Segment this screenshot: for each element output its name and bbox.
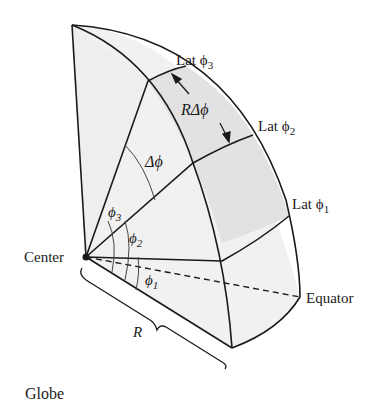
equator-label: Equator	[306, 290, 353, 306]
figure-caption: Globe	[25, 385, 64, 403]
center-label: Center	[24, 249, 64, 265]
lat1-label: Lat ϕ1	[292, 196, 329, 215]
radius-label: R	[132, 324, 142, 340]
arc-length-label: RΔϕ	[180, 101, 208, 119]
lat2-label: Lat ϕ2	[258, 118, 295, 137]
globe-diagram: Lat ϕ3 Lat ϕ2 Lat ϕ1 Equator Center RΔϕ …	[0, 0, 391, 414]
delta-phi-label: Δϕ	[144, 153, 163, 171]
center-point	[83, 254, 90, 261]
